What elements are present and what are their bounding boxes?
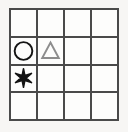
grid-cell-r1-c2[interactable] [38,10,63,36]
grid-cell-r3-c1[interactable] [11,66,36,92]
grid-cell-r4-c2[interactable] [38,93,63,119]
grid-cell-r1-c4[interactable] [92,10,117,36]
grid-cell-r4-c1[interactable] [11,93,36,119]
grid-cell-r3-c3[interactable] [65,66,90,92]
shape-grid-figure [0,0,128,132]
circle-icon [11,38,36,64]
grid-cell-r1-c1[interactable] [11,10,36,36]
asterisk-icon [11,66,36,92]
grid-cell-r2-c3[interactable] [65,38,90,64]
grid-cell-r2-c1[interactable] [11,38,36,64]
shape-grid [9,8,119,121]
grid-cell-r1-c3[interactable] [65,10,90,36]
grid-cell-r3-c2[interactable] [38,66,63,92]
grid-cell-r4-c3[interactable] [65,93,90,119]
grid-cell-r3-c4[interactable] [92,66,117,92]
grid-cell-r2-c2[interactable] [38,38,63,64]
grid-cell-r2-c4[interactable] [92,38,117,64]
grid-cell-r4-c4[interactable] [92,93,117,119]
triangle-icon [38,38,63,64]
